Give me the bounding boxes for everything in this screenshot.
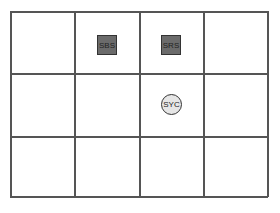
- grid-line-vertical: [10, 11, 12, 196]
- grid-line-vertical: [203, 11, 205, 196]
- grid-line-horizontal: [10, 196, 268, 198]
- grid-line-horizontal: [10, 11, 268, 13]
- grid-line-vertical: [74, 11, 76, 196]
- grid-line-horizontal: [10, 136, 268, 138]
- sbs-node: SBS: [97, 35, 117, 55]
- srs-label: SRS: [163, 41, 179, 50]
- syc-label: SYC: [163, 100, 179, 109]
- grid-line-vertical: [267, 11, 269, 197]
- sbs-label: SBS: [99, 41, 115, 50]
- grid-line-horizontal: [10, 73, 268, 75]
- grid-line-vertical: [139, 11, 141, 196]
- syc-node: SYC: [161, 94, 182, 115]
- srs-node: SRS: [161, 35, 181, 55]
- grid-diagram: [10, 11, 268, 196]
